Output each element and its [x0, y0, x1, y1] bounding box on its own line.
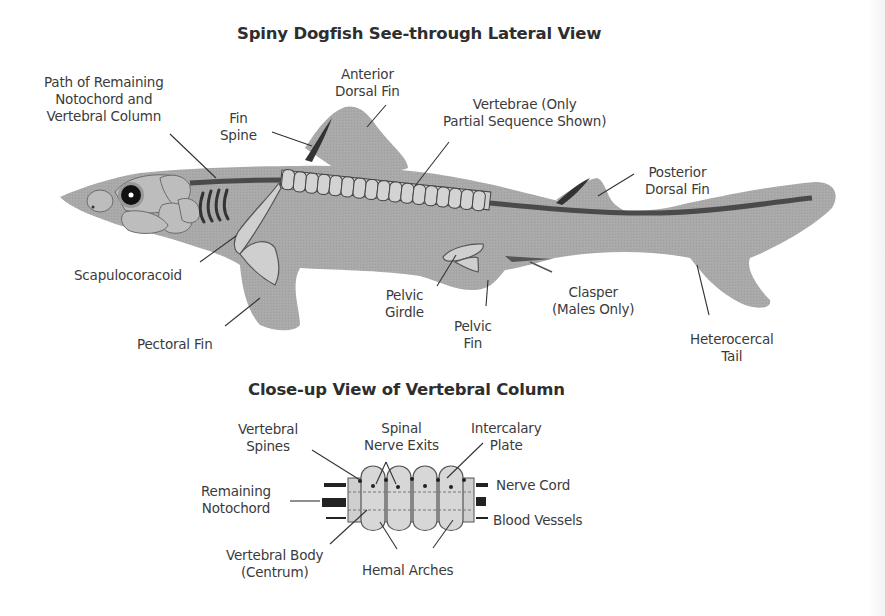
vertebral-closeup: [290, 443, 488, 549]
label-nerve-cord: Nerve Cord: [496, 477, 570, 494]
label-blood-vessels: Blood Vessels: [493, 512, 582, 529]
label-vertebral-spines: Vertebral Spines: [238, 421, 298, 455]
label-pelvic-fin: Pelvic Fin: [454, 318, 492, 352]
eye: [118, 182, 144, 208]
label-intercalary-plate: Intercalary Plate: [471, 420, 541, 454]
label-posterior-dorsal-fin: Posterior Dorsal Fin: [645, 164, 710, 198]
label-spinal-nerve-exits: Spinal Nerve Exits: [364, 420, 439, 454]
label-notochord-path: Path of Remaining Notochord and Vertebra…: [44, 74, 164, 125]
nostril: [92, 206, 95, 209]
label-hemal-arches: Hemal Arches: [362, 562, 453, 579]
label-vertebral-body: Vertebral Body (Centrum): [226, 547, 323, 581]
label-fin-spine: Fin Spine: [220, 110, 257, 144]
label-scapulocoracoid: Scapulocoracoid: [74, 267, 182, 284]
label-pectoral-fin: Pectoral Fin: [137, 336, 213, 353]
label-pelvic-girdle: Pelvic Girdle: [385, 287, 424, 321]
label-heterocercal-tail: Heterocercal Tail: [690, 331, 774, 365]
label-clasper: Clasper (Males Only): [552, 284, 634, 318]
label-remaining-notochord: Remaining Notochord: [201, 483, 271, 517]
label-anterior-dorsal-fin: Anterior Dorsal Fin: [335, 66, 400, 100]
label-vertebrae: Vertebrae (Only Partial Sequence Shown): [443, 96, 606, 130]
